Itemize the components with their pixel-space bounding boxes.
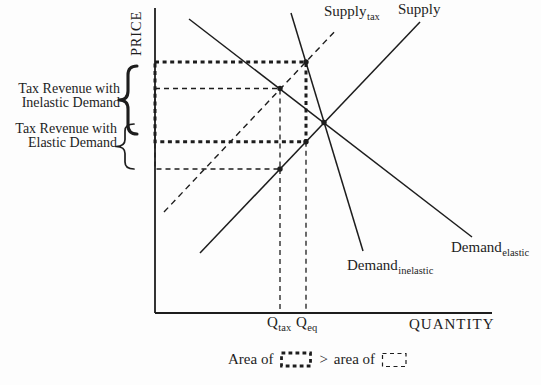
q-tax-subscript: tax [278, 322, 291, 333]
thin-dashed-box-icon [381, 351, 408, 369]
economics-diagram: PRICE QUANTITY Supplytax Supply Demandin… [0, 0, 541, 385]
curve-demand-elastic [189, 19, 472, 237]
q-eq-tick-label: Qeq [296, 315, 317, 330]
demand-inelastic-subscript: inelastic [398, 265, 433, 276]
intersection-dot-supply-at-q-elastic [277, 166, 282, 171]
annotation-tax-revenue-inelastic: Tax Revenue with Inelastic Demand [18, 82, 120, 111]
supply-tax-curve-label: Supplytax [324, 4, 380, 19]
supply-tax-subscript: tax [367, 11, 380, 22]
annotation-elastic-line2: Elastic Demand [15, 136, 117, 150]
supply-curve-label: Supply [398, 2, 441, 17]
q-tax-tick-label: Qtax [267, 315, 291, 330]
annotation-tax-revenue-elastic: Tax Revenue with Elastic Demand [15, 122, 117, 151]
tax-revenue-inelastic-rect [155, 62, 306, 142]
intersection-dot-supply-tax-x-demand-elastic [277, 86, 282, 91]
thick-dashed-box-icon [279, 350, 313, 369]
area-comparison-legend: Area of > area of [228, 350, 408, 369]
demand-inelastic-curve-label: Demandinelastic [347, 258, 433, 273]
demand-elastic-base: Demand [451, 239, 502, 255]
demand-inelastic-base: Demand [347, 257, 398, 273]
annotation-inelastic-line2: Inelastic Demand [18, 96, 120, 110]
legend-comparator-text: > [319, 351, 327, 368]
annotation-elastic-line1: Tax Revenue with [15, 122, 117, 136]
curve-demand-inelastic [291, 13, 363, 251]
q-eq-subscript: eq [307, 322, 317, 333]
x-axis-label: QUANTITY [409, 317, 494, 332]
annotation-inelastic-line1: Tax Revenue with [18, 82, 120, 96]
q-tax-base: Q [267, 314, 278, 330]
demand-elastic-curve-label: Demandelastic [451, 240, 529, 255]
legend-area-of-text: Area of [228, 351, 273, 368]
supply-base: Supply [398, 1, 441, 17]
y-axis-label: PRICE [129, 11, 144, 56]
intersection-dot-supply-tax-x-demand-inelastic [303, 59, 308, 64]
q-eq-base: Q [296, 314, 307, 330]
intersection-dot-equilibrium [321, 120, 326, 125]
tax-revenue-elastic-rect [155, 89, 280, 170]
demand-elastic-subscript: elastic [502, 247, 529, 258]
legend-area-of-lower-text: area of [334, 351, 375, 368]
curve-supply-tax [164, 29, 337, 212]
supply-tax-base: Supply [324, 3, 367, 19]
intersection-dot-supply-at-q-inelastic [303, 139, 308, 144]
